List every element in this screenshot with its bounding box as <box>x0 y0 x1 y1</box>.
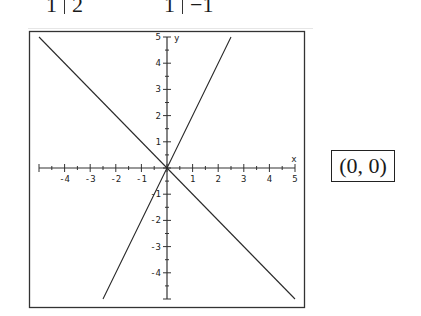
y-axis-label: y <box>174 33 180 43</box>
x-tick-label: 3 <box>241 174 246 184</box>
x-tick-label: 4 <box>267 174 272 184</box>
answer-box: (0, 0) <box>331 150 395 182</box>
x-tick-label: 5 <box>292 174 297 184</box>
y-tick-label: -3 <box>150 242 161 252</box>
y-tick-label: 5 <box>156 32 161 42</box>
x-tick-label: -2 <box>110 174 121 184</box>
x-tick-label: -4 <box>59 174 70 184</box>
x-tick-label: 2 <box>215 174 220 184</box>
x-tick-label: -1 <box>136 174 147 184</box>
x-tick-label: -3 <box>85 174 96 184</box>
y-tick-label: 1 <box>156 137 161 147</box>
y-tick-label: 2 <box>156 111 161 121</box>
x-tick-label: 1 <box>190 174 195 184</box>
y-tick-label: 3 <box>156 84 161 94</box>
x-axis-label: x <box>291 154 297 164</box>
y-tick-label: -2 <box>150 215 161 225</box>
y-tick-label: 4 <box>156 58 161 68</box>
y-tick-label: -4 <box>150 268 161 278</box>
